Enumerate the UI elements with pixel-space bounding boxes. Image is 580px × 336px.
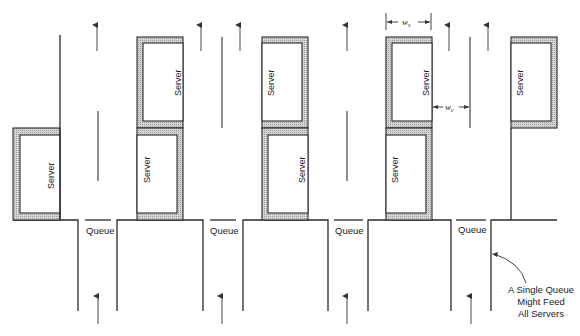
wc-label: wc [445, 102, 454, 113]
server-label: Server [390, 156, 400, 183]
single-queue-annotation: A Single Queue Might Feed All Servers [492, 252, 574, 319]
ws-label: ws [402, 17, 411, 28]
annotation-arrow-icon [492, 252, 498, 257]
server-label: Server [142, 156, 152, 183]
incoming-arrows [98, 296, 471, 324]
svg-text:Might Feed: Might Feed [517, 296, 565, 307]
queue-label-4: Queue [458, 224, 487, 235]
server-column-3: Server Server [262, 37, 308, 220]
svg-text:All Servers: All Servers [518, 308, 564, 319]
server-column-4: Server Server [386, 37, 432, 220]
svg-text:A Single Queue: A Single Queue [508, 284, 574, 295]
server-queue-diagram: Queue Queue Queue Queue Server Ser [0, 0, 580, 336]
queue-label-2: Queue [210, 225, 239, 236]
server-column-5: Server [511, 37, 557, 220]
server-label: Server [266, 69, 276, 96]
server-label: Server [515, 69, 525, 96]
dimension-wc: wc [433, 102, 469, 113]
queue-label-1: Queue [86, 225, 115, 236]
server-column-2: Server Server [137, 37, 183, 220]
server-label: Server [173, 69, 183, 96]
server-column-1: Server [13, 35, 60, 220]
server-label: Server [421, 69, 431, 96]
server-label: Server [297, 156, 307, 183]
server-label: Server [46, 162, 56, 189]
dimension-ws: ws [386, 13, 431, 30]
queue-label-3: Queue [335, 225, 364, 236]
